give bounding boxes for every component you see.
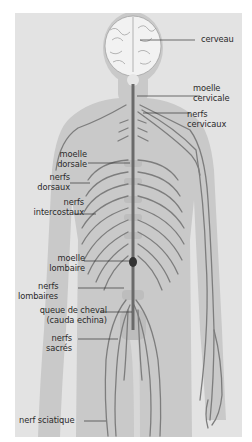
label-queue-de-cheval: queue de cheval (cauda echina) (40, 306, 107, 325)
label-nerfs-lombaires: nerfs lombaires (18, 282, 59, 301)
lumbar-enlargement (129, 257, 137, 267)
label-moelle-lombaire: moelle lombaire (49, 254, 85, 273)
label-nerfs-sacres: nerfs sacrés (46, 334, 72, 353)
label-cerveau: cerveau (201, 35, 234, 45)
label-nerf-sciatique: nerf sciatique (19, 416, 74, 426)
diagram-panel: cerveau moelle cervicale nerfs cervicaux… (15, 13, 242, 437)
label-moelle-cervicale: moelle cervicale (193, 84, 229, 103)
label-moelle-dorsale: moelle dorsale (57, 150, 87, 169)
nervous-system-illustration (15, 13, 242, 437)
label-nerfs-intercostaux: nerfs intercostaux (34, 198, 84, 217)
brain (105, 16, 161, 76)
label-nerfs-cervicaux: nerfs cervicaux (187, 110, 226, 129)
label-nerfs-dorsaux: nerfs dorsaux (37, 173, 70, 192)
